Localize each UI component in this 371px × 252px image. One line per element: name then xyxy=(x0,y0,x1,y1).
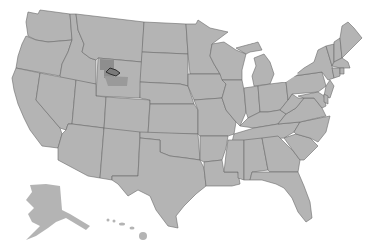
state-south-dakota[interactable] xyxy=(140,52,188,86)
us-map: United States xyxy=(0,0,371,252)
state-florida[interactable] xyxy=(250,172,312,222)
state-rhode-island[interactable] xyxy=(340,68,344,74)
state-alaska[interactable] xyxy=(26,184,90,240)
contiguous-us xyxy=(12,10,362,228)
state-hawaii[interactable] xyxy=(107,219,148,241)
state-new-mexico[interactable] xyxy=(100,128,140,180)
state-delaware[interactable] xyxy=(324,94,328,104)
state-washington[interactable] xyxy=(26,10,72,42)
state-iowa[interactable] xyxy=(188,74,226,100)
state-maine[interactable] xyxy=(340,22,362,58)
state-colorado[interactable] xyxy=(104,97,150,134)
state-north-dakota[interactable] xyxy=(142,22,188,54)
us-states-svg xyxy=(0,0,371,252)
state-montana[interactable] xyxy=(76,14,144,62)
state-kansas[interactable] xyxy=(148,104,198,134)
highlighted-county-region-south[interactable] xyxy=(104,76,128,86)
state-arizona[interactable] xyxy=(58,124,104,178)
state-arkansas[interactable] xyxy=(200,136,228,162)
